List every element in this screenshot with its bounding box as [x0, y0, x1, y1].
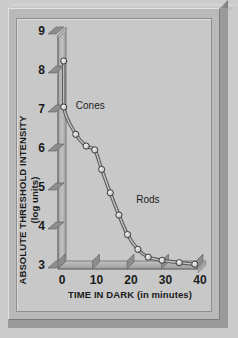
- data-point: [83, 143, 89, 149]
- data-point: [176, 260, 182, 266]
- x-tick-label: 0: [59, 273, 66, 287]
- data-point: [61, 104, 67, 110]
- figure-root: 3456789 010203040 ConesRods ABSOLUTE THR…: [0, 0, 238, 338]
- data-point: [192, 261, 198, 267]
- data-point-group: [61, 58, 198, 267]
- y-tick-label: 8: [38, 63, 45, 77]
- data-point: [135, 246, 141, 252]
- dark-adaptation-chart: 3456789 010203040 ConesRods ABSOLUTE THR…: [0, 0, 238, 338]
- y-tick-label: 9: [38, 24, 45, 38]
- data-point: [107, 190, 113, 196]
- y-tick-label: 7: [38, 102, 45, 116]
- y-axis-units: (log units): [29, 176, 40, 223]
- x-tick-label: 10: [90, 273, 104, 287]
- data-point: [124, 231, 130, 237]
- data-point: [159, 257, 165, 263]
- y-tick-label: 6: [38, 141, 45, 155]
- data-point: [73, 131, 79, 137]
- x-tick-label: 40: [193, 273, 207, 287]
- annotation-rods: Rods: [136, 194, 159, 205]
- data-point: [99, 166, 105, 172]
- data-point: [145, 254, 151, 260]
- x-axis-title: TIME IN DARK (in minutes): [68, 289, 192, 300]
- y-tick-label-group: 3456789: [38, 24, 45, 272]
- x-tick-label-group: 010203040: [59, 273, 207, 287]
- data-point: [116, 212, 122, 218]
- series-annotations: ConesRods: [76, 100, 160, 205]
- annotation-cones: Cones: [76, 100, 105, 111]
- y-tick-label: 3: [38, 258, 45, 272]
- data-point: [61, 58, 67, 64]
- x-tick-label: 20: [124, 273, 138, 287]
- x-tick-label: 30: [159, 273, 173, 287]
- data-point: [92, 147, 98, 153]
- y-axis-title: ABSOLUTE THRESHOLD INTENSITY: [17, 115, 28, 285]
